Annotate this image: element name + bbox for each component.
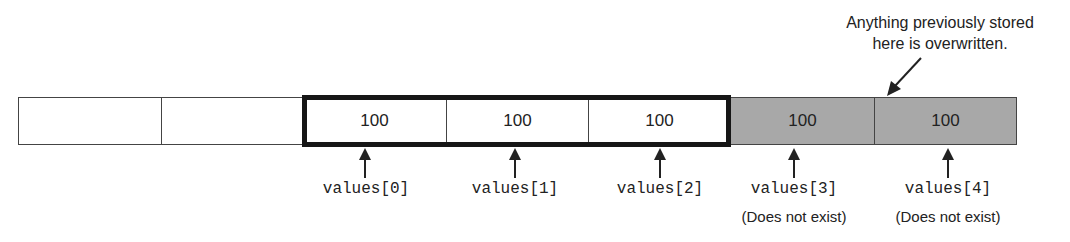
out-of-bounds-cell-4: 100 — [874, 97, 1017, 145]
index-label-2: values[2] — [617, 180, 703, 198]
index-label-4: values[4] — [905, 180, 991, 198]
memory-cell-unused-1 — [18, 97, 162, 145]
memory-cell-unused-2 — [161, 97, 304, 145]
overwrite-callout: Anything previously stored here is overw… — [815, 12, 1065, 54]
callout-line-1: Anything previously stored — [815, 12, 1065, 33]
arrow-up-icon — [947, 158, 949, 178]
callout-arrow-icon — [885, 56, 925, 98]
arrow-up-icon — [364, 158, 366, 178]
index-label-1: values[1] — [472, 180, 558, 198]
arrow-up-icon — [659, 158, 661, 178]
out-of-bounds-cell-3: 100 — [730, 97, 875, 145]
does-not-exist-note-3: (Does not exist) — [741, 208, 846, 225]
callout-line-2: here is overwritten. — [815, 33, 1065, 54]
arrow-up-icon — [793, 158, 795, 178]
index-label-3: values[3] — [751, 180, 837, 198]
array-cell-1: 100 — [446, 97, 589, 145]
arrow-up-icon — [514, 158, 516, 178]
array-cell-2: 100 — [588, 97, 731, 145]
does-not-exist-note-4: (Does not exist) — [895, 208, 1000, 225]
index-label-0: values[0] — [323, 180, 409, 198]
array-cell-0: 100 — [302, 97, 447, 145]
